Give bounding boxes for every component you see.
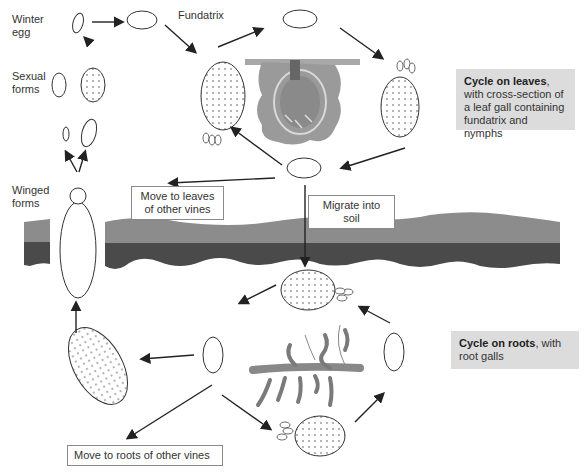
label-winter-egg-line2: egg — [12, 26, 44, 39]
arrow-move-to-roots — [128, 385, 212, 438]
box-move-to-leaves: Move to leaves of other vines — [131, 186, 224, 220]
arrow-nymph-to-adult — [340, 28, 382, 58]
label-winter-egg: Winter egg — [12, 13, 44, 39]
arrow-root-adult-to-nymph — [240, 285, 276, 303]
callout-roots-title: Cycle on roots — [459, 337, 535, 349]
label-sexual-forms-line2: forms — [12, 83, 46, 96]
arrow-move-to-leaves — [170, 178, 275, 183]
label-fundatrix: Fundatrix — [178, 9, 224, 22]
box-move-to-leaves-line1: Move to leaves — [138, 190, 217, 203]
callout-leaves-title: Cycle on leaves — [464, 75, 547, 87]
label-winter-egg-line1: Winter — [12, 13, 44, 26]
arrow-nymph-to-fundatrix-2 — [232, 128, 282, 165]
callout-cycle-on-roots: Cycle on roots, with root galls — [451, 331, 579, 369]
label-sexual-forms-line1: Sexual — [12, 70, 46, 83]
label-winged-forms-line2: forms — [12, 197, 49, 210]
label-winged-forms: Winged forms — [12, 184, 49, 210]
arrow-nymph-to-root-adult — [222, 395, 270, 429]
arrow-nymph-to-root-adult-2 — [360, 307, 390, 323]
arrow-fundatrix-to-nymph — [218, 29, 262, 47]
arrow-sexual-to-egg — [85, 38, 90, 43]
arrow-root-adult-to-nymph-2 — [355, 394, 383, 422]
box-migrate-into-soil: Migrate into soil — [308, 195, 395, 229]
arrow-adult-to-nymph — [342, 148, 405, 168]
label-winged-forms-line1: Winged — [12, 184, 49, 197]
arrow-nymph-to-fundatrix — [165, 25, 195, 52]
arrow-nymph-to-winged-nymph — [142, 355, 194, 359]
box-move-to-roots: Move to roots of other vines — [67, 445, 223, 466]
arrow-winged-to-egg-small — [66, 152, 77, 172]
callout-cycle-on-leaves: Cycle on leaves, with cross-section of a… — [456, 69, 575, 130]
box-move-to-leaves-line2: of other vines — [138, 203, 217, 216]
arrow-winged-to-egg-large — [79, 152, 85, 172]
label-sexual-forms: Sexual forms — [12, 70, 46, 96]
